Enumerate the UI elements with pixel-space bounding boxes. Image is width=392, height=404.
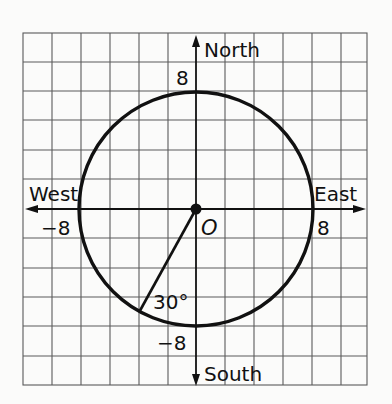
south-arrow-icon xyxy=(192,374,200,386)
tick-label-south: −8 xyxy=(157,331,186,355)
west-label: West xyxy=(29,182,78,206)
north-arrow-icon xyxy=(192,35,200,47)
angle-label: 30° xyxy=(153,290,188,314)
east-label: East xyxy=(314,182,357,206)
tick-label-north: 8 xyxy=(176,66,189,90)
tick-label-east: 8 xyxy=(317,216,330,240)
east-arrow-icon xyxy=(353,205,366,213)
compass-circle-diagram: North South West East 8 −8 8 −8 O 30° xyxy=(0,0,392,404)
north-label: North xyxy=(204,38,260,62)
origin-label: O xyxy=(201,216,218,240)
south-label: South xyxy=(204,362,262,386)
west-arrow-icon xyxy=(25,205,38,213)
center-point xyxy=(191,204,202,215)
tick-label-west: −8 xyxy=(41,216,70,240)
